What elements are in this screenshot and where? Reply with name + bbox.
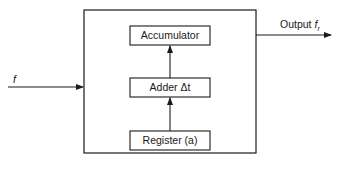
- register-label: Register (a): [130, 134, 210, 146]
- accumulator-label: Accumulator: [130, 29, 210, 41]
- output-subscript: r: [317, 25, 319, 32]
- output-label-text: Output: [280, 18, 314, 30]
- output-label: Output fr: [280, 18, 320, 32]
- input-label: f: [13, 73, 16, 85]
- adder-label: Adder Δt: [130, 81, 210, 93]
